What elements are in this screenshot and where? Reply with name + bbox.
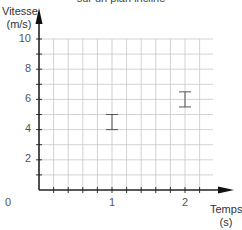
x-tick-2: 2 — [175, 196, 195, 208]
x-axis-label-unit: (s) — [210, 216, 242, 229]
y-tick-4: 4 — [3, 122, 31, 134]
x-axis-label-name: Temps — [210, 203, 242, 216]
y-tick-2: 2 — [3, 152, 31, 164]
x-axis-label: Temps (s) — [210, 203, 242, 229]
origin-label: 0 — [0, 196, 18, 208]
y-axis-arrow-icon — [36, 8, 43, 24]
y-tick-8: 8 — [3, 62, 31, 74]
y-tick-6: 6 — [3, 92, 31, 104]
x-tick-1: 1 — [102, 196, 122, 208]
x-axis-arrow-icon — [218, 187, 234, 194]
y-tick-10: 10 — [3, 32, 31, 44]
